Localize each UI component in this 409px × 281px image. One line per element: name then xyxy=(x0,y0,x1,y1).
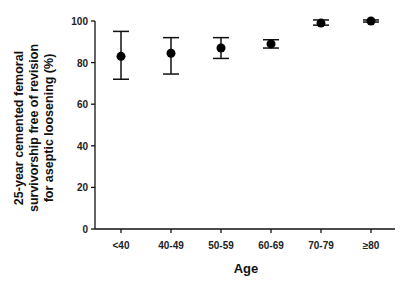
data-point xyxy=(113,31,129,79)
data-point xyxy=(213,38,229,59)
y-tick-label: 20 xyxy=(77,182,89,193)
y-tick-label: 40 xyxy=(77,141,89,152)
x-axis-label: Age xyxy=(234,261,259,276)
y-tick-label: 60 xyxy=(77,99,89,110)
data-point xyxy=(363,17,379,26)
marker xyxy=(117,52,126,61)
marker xyxy=(367,17,376,26)
x-tick-label: 40-49 xyxy=(158,240,184,251)
x-tick-label: 70-79 xyxy=(308,240,334,251)
data-point xyxy=(163,38,179,74)
y-axis: 020406080100 xyxy=(71,16,95,235)
marker xyxy=(217,44,226,53)
y-axis-label-line: survivorship free of revision xyxy=(27,44,41,212)
y-tick-label: 80 xyxy=(77,58,89,69)
y-axis-label-line: for aseptic loosening (%) xyxy=(42,54,56,203)
y-axis-label: 25-year cemented femoralsurvivorship fre… xyxy=(12,44,56,212)
marker xyxy=(167,49,176,58)
data-points xyxy=(113,17,379,80)
y-tick-label: 0 xyxy=(82,224,88,235)
data-point xyxy=(263,39,279,48)
x-tick-label: 60-69 xyxy=(258,240,284,251)
y-axis-label-line: 25-year cemented femoral xyxy=(12,51,26,205)
x-tick-label: <40 xyxy=(113,240,130,251)
chart: 020406080100 <4040-4950-5960-6970-79≥80 … xyxy=(0,0,409,281)
x-tick-label: ≥80 xyxy=(363,240,380,251)
x-axis: <4040-4950-5960-6970-79≥80 xyxy=(95,229,395,251)
data-point xyxy=(313,19,329,28)
y-tick-label: 100 xyxy=(71,16,88,27)
x-tick-label: 50-59 xyxy=(208,240,234,251)
marker xyxy=(317,19,326,28)
marker xyxy=(267,39,276,48)
